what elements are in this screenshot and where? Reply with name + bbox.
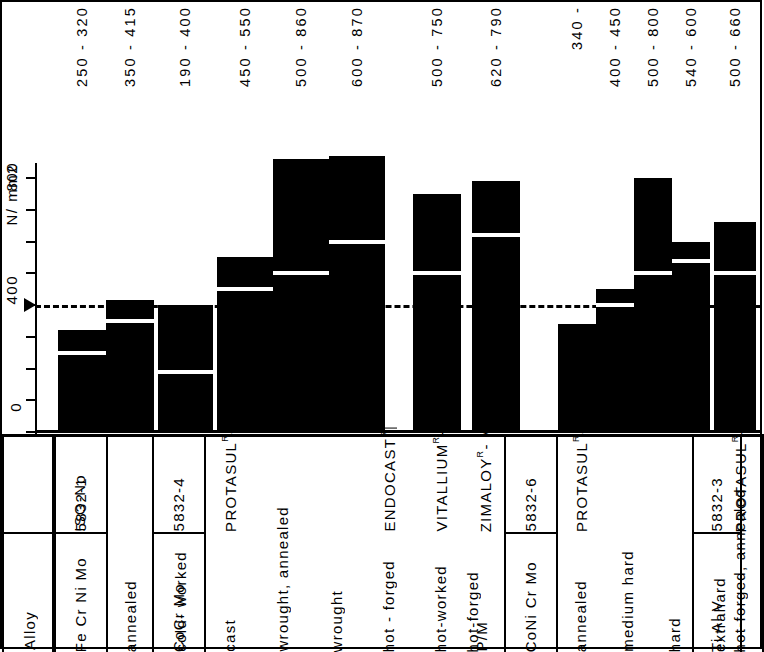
- alloy-name-cell: Fe Cr Ni Mo: [54, 532, 106, 652]
- alloy-name-cell-text: CoNi Cr Mo: [523, 561, 538, 652]
- range-label-text: 540 - 600: [684, 6, 699, 87]
- bar-min-marker: [158, 370, 213, 374]
- range-label: 540 - 600: [672, 6, 710, 150]
- treatment-label-cell: annealed: [106, 532, 154, 652]
- range-label: 500 - 860: [273, 6, 329, 150]
- treatment-label-cell-text: wrought: [329, 590, 344, 652]
- iso-number-cell: 5832-4: [152, 437, 204, 532]
- treatment-label-cell: hot-forged, annealed: [716, 532, 762, 652]
- brand-name-cell: PROTASULR- 10: [556, 437, 604, 532]
- range-label: 600 - 870: [329, 6, 385, 150]
- plot-area: N/ mm2 800 400 0: [2, 154, 764, 434]
- treatment-label-cell-text: medium hard: [620, 550, 635, 652]
- treatment-label-cell: medium hard: [602, 532, 652, 652]
- range-label-text: 600 - 870: [350, 6, 365, 87]
- brand-name-cell-text: VITALLIUMR- FHS: [432, 388, 449, 532]
- registered-mark: R: [475, 449, 485, 457]
- treatment-label-cell-text: hot-worked: [433, 565, 448, 652]
- alloy-name-cell-text: Fe Cr Ni Mo: [73, 557, 88, 652]
- y-axis-tick: [26, 336, 36, 338]
- range-label: 350 - 415: [106, 6, 154, 150]
- bar: [672, 242, 710, 433]
- range-label-text: 400 - 450: [608, 6, 623, 87]
- treatment-label-cell: hot - forged: [362, 532, 414, 652]
- y-tick-label-0: 0: [8, 402, 23, 412]
- bar-min-marker: [413, 271, 461, 275]
- brand-name-cell: PROTASULR- 21WF: [204, 437, 254, 532]
- range-label-band: 250 - 320350 - 415190 - 400450 - 550500 …: [2, 2, 764, 154]
- y-axis-tick: [26, 368, 36, 370]
- y-axis-tick: [26, 304, 36, 306]
- bar: [329, 156, 385, 432]
- brand-name-cell-text: ZIMALOYR- Micro Grain: [476, 344, 493, 532]
- bar-min-marker: [329, 240, 385, 244]
- iso-number-cell-text: 5832-4: [171, 477, 186, 532]
- treatment-label-cell-text: annealed: [123, 580, 138, 652]
- bar-min-marker: [273, 271, 329, 275]
- treatment-label-cell-text: wrought, annealed: [275, 506, 290, 652]
- treatment-label-cell-text: cast: [222, 619, 237, 652]
- bar-min-marker: [714, 271, 756, 275]
- treatment-label-cell: annealed: [556, 532, 604, 652]
- range-label-text: 500 - 860: [294, 6, 309, 87]
- treatment-label-cell-text: annealed: [573, 580, 588, 652]
- bar: [634, 178, 672, 432]
- range-label-text: 500 - 660: [728, 6, 743, 87]
- treatment-label-cell-text: hot - forged: [381, 560, 396, 652]
- bar: [158, 305, 213, 432]
- bar-min-marker: [472, 233, 520, 237]
- range-label-text: 340 -: [570, 6, 585, 50]
- treatment-label-cell-text: P/M: [474, 621, 489, 652]
- range-label-text: 350 - 415: [123, 6, 138, 87]
- treatment-label-cell-text: cold- worked: [173, 551, 188, 652]
- brand-name-cell-text: PROTASULR-64WF: [731, 381, 748, 532]
- brand-name-cell-text: PROTASULR- 10: [572, 401, 589, 532]
- range-label-text: 250 - 320: [75, 6, 90, 87]
- treatment-label-cell: cast: [204, 532, 254, 652]
- bar-min-marker: [106, 319, 154, 323]
- iso-number-cell-text: 5832-1: [73, 477, 88, 532]
- range-label: 500 - 800: [634, 6, 672, 150]
- bar: [596, 289, 634, 432]
- y-axis-tick: [26, 431, 36, 433]
- bar: [58, 330, 106, 432]
- range-label: 250 - 320: [58, 6, 106, 150]
- range-label-text: 500 - 800: [646, 6, 661, 87]
- treatment-label-cell: wrought, annealed: [254, 532, 310, 652]
- table-divider: [2, 437, 4, 652]
- bar-min-marker: [217, 287, 273, 291]
- registered-mark: R: [220, 434, 230, 442]
- bar: [273, 159, 329, 432]
- registered-mark: R: [379, 430, 389, 438]
- range-label: 340 -: [558, 6, 596, 150]
- range-label-text: 450 - 550: [238, 6, 253, 87]
- y-tick-label-800: 800: [4, 162, 19, 192]
- y-axis-tick: [26, 209, 36, 211]
- y-tick-label-400: 400: [4, 275, 19, 305]
- range-label-text: 190 - 400: [178, 6, 193, 87]
- bar-min-marker: [58, 351, 106, 355]
- range-label-text: 620 - 790: [489, 6, 504, 87]
- brand-name-cell: ZIMALOYR- Micro Grain: [458, 437, 510, 532]
- treatment-label-cell: P/M: [458, 532, 504, 652]
- treatment-label-cell: wrought: [310, 532, 362, 652]
- table-header-alloy: Alloy: [6, 532, 52, 650]
- brand-name-cell: PROTASULR-64WF: [716, 437, 762, 532]
- brand-name-cell: ENDOCASTR: [362, 437, 414, 532]
- brand-name-cell-text: ENDOCASTR: [380, 428, 397, 532]
- y-axis-tick: [26, 399, 36, 401]
- iso-number-cell: 5832-6: [504, 437, 556, 532]
- range-label: 400 - 450: [596, 6, 634, 150]
- registered-mark: R: [431, 436, 441, 444]
- registered-mark: R: [730, 434, 740, 442]
- range-label: 500 - 660: [714, 6, 756, 150]
- y-axis-tick: [26, 241, 36, 243]
- treatment-label-cell: cold- worked: [154, 532, 206, 652]
- bar-min-marker: [596, 303, 634, 307]
- treatment-label-cell-text: hard: [667, 617, 682, 652]
- range-label: 620 - 790: [472, 6, 520, 150]
- iso-number-cell: 5832-1: [54, 437, 106, 532]
- range-label-text: 500 - 750: [430, 6, 445, 87]
- range-label: 450 - 550: [217, 6, 273, 150]
